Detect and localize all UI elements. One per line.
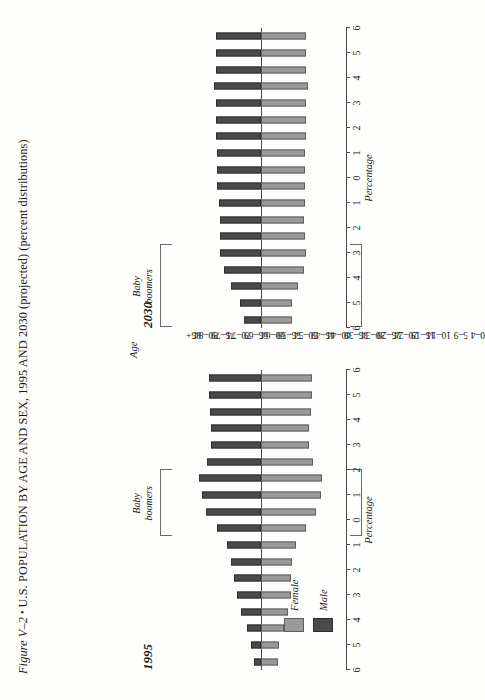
axis-tick-label: 4 (351, 618, 362, 623)
axis-tick-label: 5 (351, 51, 362, 56)
age-column (176, 261, 346, 278)
bar-female (261, 199, 305, 206)
axis-tick (346, 177, 350, 178)
age-tick-label: 5–9 (454, 330, 468, 341)
axis-tick (346, 77, 350, 78)
bar-male (207, 458, 261, 465)
age-column (176, 311, 346, 328)
axis-tick-label: 4 (351, 276, 362, 281)
bar-male (209, 375, 261, 382)
age-column (176, 128, 346, 145)
age-column (176, 553, 346, 570)
bar-male (217, 183, 261, 190)
figure-title: Figure V–2•U.S. POPULATION BY AGE AND SE… (16, 24, 31, 674)
age-column (176, 95, 346, 112)
male-swatch-icon (313, 618, 333, 632)
age-column (176, 470, 346, 487)
age-tick-label: 0–4 (470, 330, 484, 341)
axis-tick-label: 2 (351, 126, 362, 131)
bar-female (261, 625, 284, 632)
bar-female (261, 491, 321, 498)
baby-boomers-line2: boomers (143, 269, 154, 303)
bar-male (216, 66, 261, 73)
bar-male (241, 608, 261, 615)
bars-container (176, 28, 346, 328)
axis-tick-label: 2 (351, 568, 362, 573)
age-column (176, 403, 346, 420)
bar-male (206, 508, 261, 515)
axis-tick-label: 6 (351, 26, 362, 31)
axis-tick-label: 1 (351, 543, 362, 548)
age-tick-labels: 85+80–8475–7970–7465–6960–6455–5950–5445… (176, 328, 366, 370)
bar-female (261, 316, 292, 323)
bar-female (261, 642, 279, 649)
bar-female (261, 391, 312, 398)
bar-male (244, 316, 261, 323)
axis-tick-label: 0 (351, 518, 362, 523)
axis-tick-label: 6 (351, 326, 362, 331)
axis-tick-label: 4 (351, 76, 362, 81)
age-column (176, 537, 346, 554)
axis-tick (346, 494, 350, 495)
bar-female (261, 541, 296, 548)
bar-female (261, 283, 298, 290)
panel-year-label: 1995 (140, 644, 156, 670)
bar-female (261, 441, 309, 448)
bar-female (261, 475, 322, 482)
axis-tick-label: 5 (351, 393, 362, 398)
axis-tick-label: 2 (351, 226, 362, 231)
bar-male (240, 300, 261, 307)
bar-male (231, 558, 261, 565)
bar-female (261, 133, 306, 140)
bar-female (261, 33, 306, 40)
bar-female (261, 458, 313, 465)
axis-tick (346, 544, 350, 545)
percentage-axis-title: Percentage (363, 154, 374, 201)
female-swatch-icon (284, 618, 304, 632)
age-column (176, 145, 346, 162)
baby-boomers-annotation: Baby boomers (131, 477, 154, 529)
age-column (176, 653, 346, 670)
bar-female (261, 66, 306, 73)
legend-label-female: Female (289, 580, 300, 612)
axis-tick (346, 669, 350, 670)
bar-female (261, 408, 311, 415)
bar-female (261, 508, 316, 515)
bar-female (261, 116, 306, 123)
bar-male (234, 575, 261, 582)
axis-tick-label: 6 (351, 668, 362, 673)
bar-male (247, 625, 261, 632)
axis-tick (346, 444, 350, 445)
axis-tick-label: 3 (351, 593, 362, 598)
bar-male (217, 149, 261, 156)
bar-female (261, 266, 304, 273)
legend-item-female: Female (284, 580, 304, 633)
axis-tick-label: 0 (351, 176, 362, 181)
age-column (176, 503, 346, 520)
axis-tick (346, 102, 350, 103)
bar-male (210, 408, 261, 415)
axis-tick (346, 202, 350, 203)
bar-male (227, 541, 261, 548)
age-column (176, 453, 346, 470)
bar-female (261, 249, 306, 256)
axis-tick (346, 27, 350, 28)
axis-tick (346, 394, 350, 395)
bar-female (261, 183, 305, 190)
bar-female (261, 166, 305, 173)
axis-tick-label: 1 (351, 493, 362, 498)
age-column (176, 228, 346, 245)
figure-title-text: U.S. POPULATION BY AGE AND SEX, 1995 AND… (16, 139, 30, 607)
age-column (176, 437, 346, 454)
axis-tick-label: 3 (351, 101, 362, 106)
bar-male (217, 525, 261, 532)
axis-tick (346, 252, 350, 253)
axis-tick (346, 569, 350, 570)
axis-tick-label: 1 (351, 151, 362, 156)
axis-tick (346, 302, 350, 303)
bar-male (211, 441, 261, 448)
axis-tick (346, 327, 350, 328)
axis-tick (346, 277, 350, 278)
